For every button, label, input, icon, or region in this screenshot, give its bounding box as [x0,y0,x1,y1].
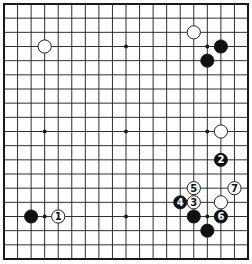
black-stone [187,210,200,223]
white-stone-move-7: 7 [228,182,241,195]
stone-body [187,210,200,223]
stone-body [187,26,200,39]
stone-body [214,40,227,53]
white-stone [214,196,227,209]
move-number-label: 1 [55,211,62,222]
white-stone [38,40,51,53]
white-stone [214,125,227,138]
stone-body [201,54,214,67]
black-stone [201,224,214,237]
star-point [124,215,128,219]
move-number-label: 3 [190,197,197,208]
black-stone [201,54,214,67]
black-stone-move-6: 6 [214,210,227,223]
stone-body [25,210,38,223]
star-point [205,215,209,219]
black-stone [214,40,227,53]
move-number-label: 5 [190,183,197,194]
move-number-label: 4 [177,197,184,208]
stone-body [38,40,51,53]
stone-body [201,224,214,237]
white-stone-move-3: 3 [187,196,200,209]
move-number-label: 2 [217,154,224,165]
star-point [205,45,209,49]
stone-body [214,125,227,138]
move-number-label: 7 [231,183,238,194]
star-point [43,215,47,219]
move-number-label: 6 [217,211,224,222]
black-stone-move-2: 2 [214,153,227,166]
stone-body [214,196,227,209]
star-point [124,130,128,134]
star-point [205,130,209,134]
white-stone-move-1: 1 [52,210,65,223]
go-board: 2574361 [0,0,252,264]
star-point [124,45,128,49]
black-stone [25,210,38,223]
white-stone-move-5: 5 [187,182,200,195]
go-board-diagram: 2574361 [0,0,252,264]
star-point [43,130,47,134]
black-stone-move-4: 4 [174,196,187,209]
white-stone [187,26,200,39]
